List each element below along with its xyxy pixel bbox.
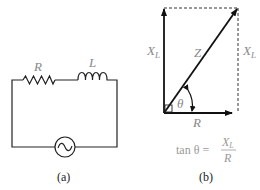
caption-b: (b) <box>199 170 213 184</box>
tangent-equation: tan θ = XL R <box>176 135 236 165</box>
theta-angle-arc <box>188 90 192 111</box>
theta-label: θ <box>177 96 184 111</box>
z-vector-arrow <box>164 9 237 113</box>
equation-denominator: R <box>223 151 232 165</box>
rl-circuit: R L (a) <box>12 55 117 184</box>
equation-numerator: XL <box>221 135 234 150</box>
inductor-symbol <box>78 73 108 81</box>
equation-lhs: tan θ = <box>176 143 209 157</box>
inductor-label: L <box>88 55 96 70</box>
xl-right-label: XL <box>242 43 256 60</box>
r-label: R <box>192 115 201 130</box>
impedance-diagram: XL XL Z θ R tan θ = XL R (b) <box>146 8 256 184</box>
resistor-label: R <box>33 59 42 74</box>
caption-a: (a) <box>57 170 70 184</box>
resistor-symbol <box>23 76 55 84</box>
z-label: Z <box>194 45 202 60</box>
xl-left-label: XL <box>146 43 160 60</box>
diagram-canvas: R L (a) XL XL Z θ R tan θ = XL R (b) <box>0 0 260 190</box>
